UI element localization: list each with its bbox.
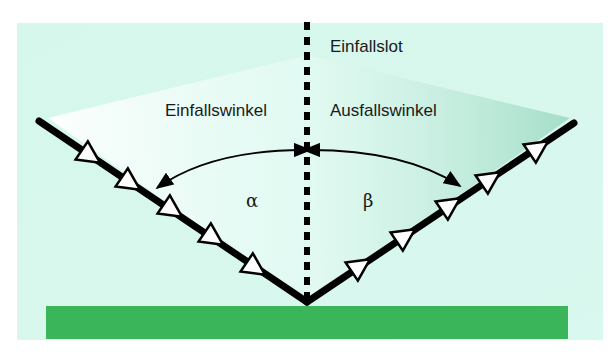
diagram-canvas: Einfallslot Einfallswinkel Ausfallswinke…	[0, 0, 613, 354]
incidence-angle-label: Einfallswinkel	[165, 101, 267, 120]
normal-label: Einfallslot	[330, 37, 403, 56]
reflection-diagram: Einfallslot Einfallswinkel Ausfallswinke…	[0, 0, 613, 354]
reflection-angle-label: Ausfallswinkel	[330, 101, 437, 120]
reflecting-surface	[46, 306, 568, 339]
alpha-symbol: α	[246, 190, 258, 211]
beta-symbol: β	[363, 190, 373, 211]
